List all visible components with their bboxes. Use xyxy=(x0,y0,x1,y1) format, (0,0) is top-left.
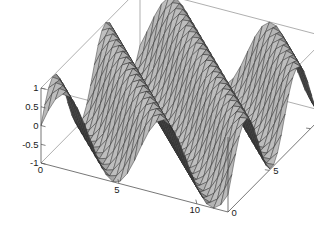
x-tick-label: 5 xyxy=(114,184,119,195)
plot-canvas: -1-0.500.5151051000 xyxy=(0,0,314,240)
z-tick-label: 0.5 xyxy=(25,101,38,112)
y-origin-label: 0 xyxy=(232,207,237,218)
y-tick-label: 5 xyxy=(273,165,278,176)
x-tick-label: 10 xyxy=(190,204,201,215)
z-tick-label: 1 xyxy=(33,82,38,93)
z-tick-label: -0.5 xyxy=(22,139,38,150)
z-tick-label: 0 xyxy=(33,120,38,131)
surface-plot-figure: -1-0.500.5151051000 xyxy=(0,0,314,240)
x-origin-label: 0 xyxy=(38,164,43,175)
